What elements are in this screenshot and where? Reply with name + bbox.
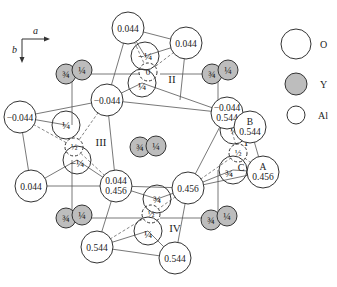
svg-text:0.044: 0.044 [117,24,139,34]
site-label-b: B [247,117,253,127]
svg-text:Al: Al [318,110,328,121]
svg-text:0.456: 0.456 [105,186,127,196]
legend: O Y Al [281,29,328,124]
al-atom-hidden: ½ [65,138,83,156]
o-atom-b: B0.544 [234,111,266,143]
svg-text:¼: ¼ [78,210,86,221]
svg-text:0.544: 0.544 [164,254,186,264]
o-atom: 0.544 [159,242,191,274]
region-label-ii: II [168,73,176,85]
y-atom: ¼ [72,205,92,225]
o-atom: 0.456 [172,172,204,204]
svg-text:−0.044: −0.044 [94,96,121,106]
svg-text:0.044: 0.044 [175,39,197,49]
svg-text:−0.044: −0.044 [214,103,241,113]
o-atom: 0.044 [15,170,47,202]
region-label-iv: IV [169,222,181,234]
svg-text:¼: ¼ [224,65,232,76]
svg-text:¾: ¾ [225,167,233,179]
svg-text:0.044: 0.044 [20,182,42,192]
svg-text:¾: ¾ [62,69,70,80]
svg-text:0.456: 0.456 [177,184,199,194]
o-atom: 0.044 [112,12,144,44]
svg-text:O: O [320,39,327,50]
legend-item-oxygen: O [281,29,327,59]
region-label-iii: III [96,136,107,148]
svg-text:0.044: 0.044 [105,176,127,186]
garnet-structure-diagram: a b [0,0,337,287]
svg-text:0.456: 0.456 [252,172,274,182]
axis-indicator: a b [12,25,50,63]
svg-text:−¼: −¼ [138,50,152,62]
al-atom-hidden: ½ [229,144,247,162]
y-atom: ¼ [146,136,166,156]
svg-text:¼: ¼ [152,141,160,152]
y-atom: ¼ [218,60,238,80]
o-atom-a: A0.456 [247,156,279,188]
svg-text:¾: ¾ [207,215,215,226]
svg-text:¼: ¼ [62,119,70,131]
o-atom: 0.0440.456 [100,170,132,202]
svg-text:0.544: 0.544 [239,127,261,137]
yttrium-swatch-icon [285,73,307,95]
axis-a-label: a [33,25,38,36]
y-atom: ¼ [72,60,92,80]
oxygen-swatch-icon [281,29,311,59]
svg-text:0.544: 0.544 [86,243,108,253]
y-atom: ¼ [217,206,237,226]
aluminum-swatch-icon [287,106,305,124]
axis-b-label: b [12,44,17,55]
al-atom-hidden: 0 [139,63,157,81]
legend-item-aluminum: Al [287,106,328,124]
o-atom: 0.044 [170,27,202,59]
svg-text:¾: ¾ [153,193,161,205]
svg-text:¾: ¾ [136,142,144,153]
svg-text:−¼: −¼ [70,157,84,169]
svg-text:¼: ¼ [78,65,86,76]
svg-text:¼: ¼ [223,211,231,222]
site-label-c: C [238,162,245,173]
svg-text:¼: ¼ [138,80,146,92]
svg-text:Y: Y [320,79,327,90]
svg-text:−0.044: −0.044 [7,113,34,123]
svg-text:¾: ¾ [62,213,70,224]
al-atom: ¼ [52,111,80,139]
site-label-a: A [260,162,267,172]
o-atom: −0.044 [91,84,123,116]
o-atom: 0.544 [81,231,113,263]
svg-text:¼: ¼ [144,228,152,240]
legend-item-yttrium: Y [285,73,327,95]
o-atom: −0.044 [4,101,36,133]
svg-text:¾: ¾ [208,69,216,80]
